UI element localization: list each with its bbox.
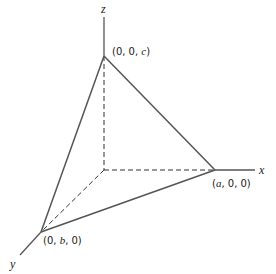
x-axis-label: x [258,163,265,177]
edge-x-y [41,170,215,232]
vertex-label-y: (0, b, 0) [43,234,82,246]
y-axis [20,232,41,255]
edge-z-y [41,56,104,232]
y-axis-hidden [41,170,104,232]
edge-z-x [104,56,215,170]
z-axis-label: z [100,2,106,16]
vertex-label-z: (0, 0, c) [112,45,150,57]
y-axis-label: y [9,257,16,271]
tetrahedron-diagram: z x y (0, 0, c) (a, 0, 0) (0, b, 0) [0,0,276,274]
vertex-label-x: (a, 0, 0) [212,177,251,189]
